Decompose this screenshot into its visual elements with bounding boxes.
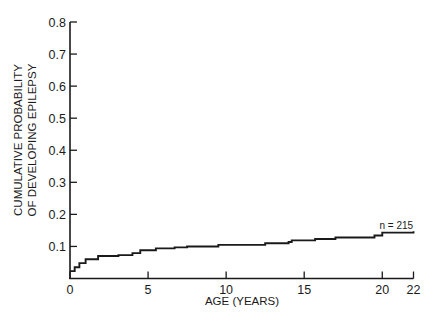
y-tick-label: 0.2 — [49, 208, 66, 222]
plot-area — [70, 231, 414, 271]
chart: CUMULATIVE PROBABILITYOF DEVELOPING EPIL… — [0, 0, 434, 324]
y-axis: 0.10.20.30.40.50.60.70.8 — [49, 16, 77, 280]
x-tick-label: 22 — [407, 283, 421, 297]
y-tick-label: 0.4 — [49, 144, 66, 158]
step-line-series — [70, 231, 414, 271]
x-tick-label: 0 — [67, 283, 74, 297]
sample-size-annotation: n = 215 — [379, 220, 413, 231]
y-tick-label: 0.1 — [49, 240, 66, 254]
y-tick-label: 0.3 — [49, 176, 66, 190]
annotations: n = 215 — [379, 220, 413, 231]
x-axis-title: AGE (YEARS) — [205, 295, 279, 307]
x-axis-title-text: AGE (YEARS) — [205, 295, 279, 307]
x-axis: 0510152022 — [67, 272, 421, 297]
y-tick-label: 0.8 — [49, 16, 66, 30]
y-axis-title-line: CUMULATIVE PROBABILITY — [12, 64, 24, 216]
y-tick-label: 0.7 — [49, 48, 66, 62]
y-axis-title: CUMULATIVE PROBABILITYOF DEVELOPING EPIL… — [12, 63, 38, 216]
x-tick-label: 20 — [375, 283, 389, 297]
y-axis-title-line: OF DEVELOPING EPILEPSY — [26, 63, 38, 216]
y-tick-label: 0.6 — [49, 80, 66, 94]
x-tick-label: 5 — [145, 283, 152, 297]
x-tick-label: 15 — [297, 283, 311, 297]
y-tick-label: 0.5 — [49, 112, 66, 126]
